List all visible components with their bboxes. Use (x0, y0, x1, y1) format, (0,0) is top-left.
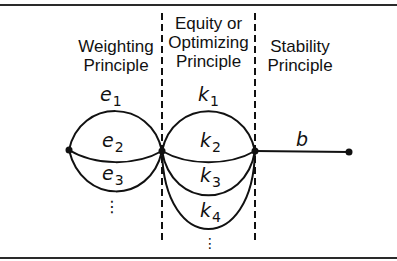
edge-b (255, 151, 349, 152)
label-b: b (296, 130, 308, 149)
node-middle (159, 148, 166, 155)
diagram-frame: Weighting Principle Equity or Optimizing… (0, 0, 397, 261)
ellipsis-middle: ⋮ (203, 236, 217, 250)
label-k3: k3 (200, 166, 221, 189)
label-k2: k2 (200, 131, 221, 154)
ellipsis-left: ⋮ (104, 199, 120, 215)
heading-equity: Equity or Optimizing Principle (162, 14, 255, 71)
heading-line: Optimizing (162, 33, 255, 52)
heading-line: Weighting (70, 37, 162, 56)
heading-line: Stability (260, 37, 340, 56)
label-e3: e3 (102, 164, 124, 187)
label-e2: e2 (102, 131, 124, 154)
heading-line: Principle (162, 52, 255, 71)
heading-line: Principle (70, 56, 162, 75)
heading-line: Principle (260, 56, 340, 75)
node-right (252, 148, 259, 155)
label-k4: k4 (200, 201, 221, 224)
heading-weighting: Weighting Principle (70, 37, 162, 75)
heading-stability: Stability Principle (260, 37, 340, 75)
heading-line: Equity or (162, 14, 255, 33)
node-end (346, 149, 353, 156)
node-left (66, 147, 73, 154)
label-e1: e1 (100, 85, 122, 108)
label-k1: k1 (198, 85, 219, 108)
